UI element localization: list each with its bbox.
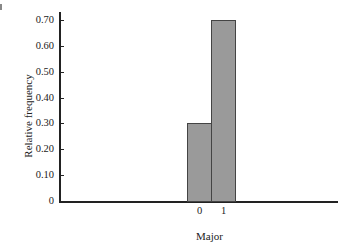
y-tick-label: 0.50	[4, 67, 54, 77]
y-axis-line	[59, 12, 61, 202]
y-tick-label: 0.60	[4, 41, 54, 51]
y-tick-label: 0.30	[4, 118, 54, 128]
y-tick-label: 0	[4, 196, 54, 206]
bar-category-1	[211, 20, 236, 202]
x-axis-title: Major	[196, 230, 223, 242]
y-axis-title: Relative frequency	[22, 61, 34, 171]
y-tick-label: 0.10	[4, 170, 54, 180]
x-tick-label-1: 1	[218, 205, 230, 216]
x-tick-label-0: 0	[194, 205, 206, 216]
y-tick-label: 0.70	[4, 15, 54, 25]
y-tick-label: 0.40	[4, 93, 54, 103]
y-tick-label: 0.20	[4, 144, 54, 154]
bar-category-0	[187, 123, 212, 202]
corner-mark	[0, 4, 2, 10]
